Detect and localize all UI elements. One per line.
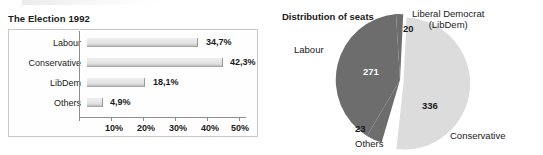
axis-tick	[111, 117, 112, 121]
pie-chart-graphic	[330, 14, 470, 150]
bar-category-label: Labour	[8, 33, 87, 53]
bar-row: Conservative 42,3%	[8, 53, 258, 73]
axis-tick	[175, 117, 176, 121]
bar-value-label: 4,9%	[110, 97, 131, 107]
pie-value-conservative: 336	[422, 100, 438, 111]
pie-label-libdem: Liberal Democrat (LibDem)	[412, 8, 484, 30]
bar-chart-rows: Labour 34,7% Conservative 42,3% LibDem 1…	[8, 33, 258, 113]
bar-track: 18,1%	[87, 73, 258, 93]
bar-track: 4,9%	[87, 93, 258, 113]
bar-category-label: LibDem	[8, 73, 87, 93]
bar-fill	[87, 78, 145, 87]
bar-value-label: 34,7%	[206, 37, 232, 47]
pie-label-labour: Labour	[294, 44, 324, 55]
axis-tick	[239, 117, 240, 121]
axis-tick-label: 50%	[231, 123, 249, 133]
bar-fill	[87, 58, 223, 67]
axis-tick-label: 40%	[201, 123, 219, 133]
axis-tick-label: 10%	[105, 123, 123, 133]
bar-chart-category-axis	[79, 31, 80, 117]
bar-track: 34,7%	[87, 33, 258, 53]
axis-tick	[207, 117, 208, 121]
axis-tick-label: 30%	[169, 123, 187, 133]
bar-category-label: Others	[8, 93, 87, 113]
pie-value-others: 23	[355, 123, 366, 134]
bar-category-label: Conservative	[8, 53, 87, 73]
axis-tick	[79, 117, 80, 121]
pie-label-others: Others	[355, 138, 384, 149]
axis-tick	[143, 117, 144, 121]
seats-pie-chart-panel: Distribution of seats Labour Liberal Dem…	[272, 0, 543, 155]
pie-label-libdem-line2: (LibDem)	[412, 19, 484, 30]
pie-label-libdem-line1: Liberal Democrat	[412, 8, 484, 19]
bar-value-label: 18,1%	[153, 77, 179, 87]
bar-fill	[87, 38, 198, 47]
pie-value-libdem: 20	[403, 23, 414, 34]
axis-tick-label: 20%	[137, 123, 155, 133]
bar-row: Labour 34,7%	[8, 33, 258, 53]
election-bar-chart-panel: The Election 1992 Labour 34,7% Conservat…	[0, 0, 272, 155]
pie-value-labour: 271	[363, 66, 379, 77]
bar-chart-title: The Election 1992	[8, 13, 90, 24]
bar-chart-value-axis	[79, 117, 246, 118]
bar-track: 42,3%	[87, 53, 258, 73]
bar-row: LibDem 18,1%	[8, 73, 258, 93]
bar-value-label: 42,3%	[230, 57, 256, 67]
bar-fill	[87, 98, 103, 107]
pie-label-conservative: Conservative	[450, 130, 505, 141]
bar-row: Others 4,9%	[8, 93, 258, 113]
